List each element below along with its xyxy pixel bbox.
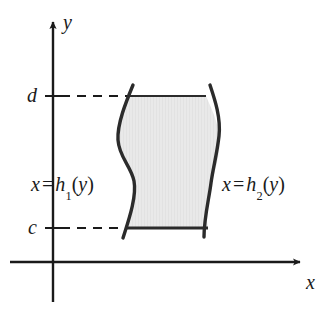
y-axis-label: y — [63, 12, 72, 32]
tick-label-c: c — [28, 217, 37, 237]
curve-label-h1: x=h1(y) — [31, 174, 94, 194]
h1-argument: y — [78, 173, 87, 195]
h1-equals: = — [40, 173, 55, 195]
h1-paren-close: ) — [87, 173, 94, 195]
h1-variable: x — [31, 173, 40, 195]
h1-function: h — [55, 173, 65, 195]
figure-canvas: y x d c x=h1(y) x=h2(y) — [0, 0, 335, 319]
h2-variable: x — [222, 173, 231, 195]
h2-paren-close: ) — [278, 173, 285, 195]
tick-label-d: d — [27, 85, 37, 105]
diagram-svg — [0, 0, 335, 319]
h1-subscript: 1 — [65, 189, 72, 203]
x-axis-label: x — [306, 272, 315, 292]
h2-argument: y — [269, 173, 278, 195]
h2-subscript: 2 — [256, 189, 263, 203]
h2-function: h — [246, 173, 256, 195]
curve-label-h2: x=h2(y) — [222, 174, 285, 194]
dashed-guides — [61, 96, 129, 228]
h2-equals: = — [231, 173, 246, 195]
